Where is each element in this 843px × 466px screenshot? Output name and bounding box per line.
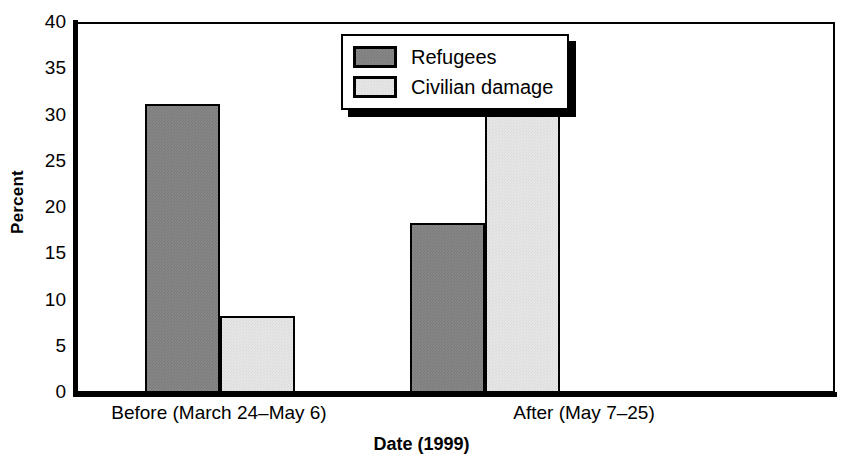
y-tick-label-wrap: 35 [18, 58, 66, 78]
y-tick-label-wrap: 10 [18, 290, 66, 310]
y-tick-label: 20 [22, 197, 66, 216]
chart-legend: Refugees Civilian damage [341, 34, 569, 110]
y-tick-label-wrap: 15 [18, 243, 66, 263]
y-tick-label-wrap: 30 [18, 105, 66, 125]
y-tick-label: 30 [22, 105, 66, 124]
y-tick-label: 35 [22, 58, 66, 77]
y-tick-label-wrap: 20 [18, 197, 66, 217]
y-tick-label: 5 [22, 336, 66, 355]
bar-civilian-damage-group0 [220, 316, 295, 393]
legend-label-refugees: Refugees [411, 47, 497, 67]
legend-item-refugees: Refugees [353, 42, 553, 72]
legend-item-civilian-damage: Civilian damage [353, 72, 553, 102]
x-tick-label-after: After (May 7–25) [434, 403, 734, 424]
bar-refugees-group0 [145, 104, 220, 393]
y-tick-label: 0 [22, 382, 66, 401]
bar-refugees-group1 [410, 223, 485, 393]
legend-swatch-civilian-damage-icon [353, 76, 397, 98]
y-axis-spine [73, 20, 78, 397]
legend-label-civilian-damage: Civilian damage [411, 77, 553, 97]
bar-chart-figure: Percent 4035302520151050 Refugees Civili… [0, 0, 843, 466]
legend-swatch-refugees-icon [353, 46, 397, 68]
x-axis-title: Date (1999) [0, 435, 843, 455]
y-tick-label: 40 [22, 12, 66, 31]
y-tick-label-wrap: 0 [18, 382, 66, 402]
y-tick-label: 10 [22, 290, 66, 309]
y-tick-label: 25 [22, 151, 66, 170]
y-tick-label-wrap: 5 [18, 336, 66, 356]
y-tick-label-wrap: 40 [18, 12, 66, 32]
x-tick-label-before: Before (March 24–May 6) [69, 403, 369, 424]
y-tick-label: 15 [22, 243, 66, 262]
y-tick-label-wrap: 25 [18, 151, 66, 171]
